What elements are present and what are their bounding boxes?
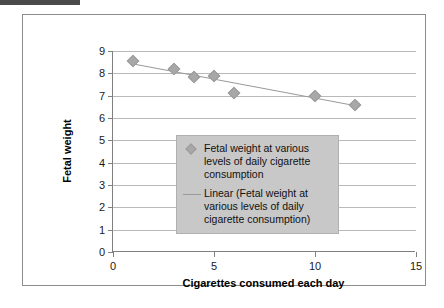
top-page-rule (0, 0, 80, 5)
diamond-marker-icon (182, 142, 204, 156)
x-tick-label: 0 (110, 260, 116, 272)
y-tick-label: 5 (99, 134, 105, 146)
x-tick (315, 252, 316, 257)
y-tick-label: 1 (99, 224, 105, 236)
x-tick (113, 252, 114, 257)
y-tick-label: 2 (99, 201, 105, 213)
y-tick-label: 4 (99, 157, 105, 169)
legend-entry-scatter: Fetal weight at various levels of daily … (182, 142, 333, 181)
legend-entry-trend: Linear (Fetal weight at various levels o… (182, 187, 333, 226)
trend-line-icon (182, 187, 204, 201)
x-tick-label: 15 (410, 260, 422, 272)
y-tick-label: 0 (99, 246, 105, 258)
y-tick-label: 9 (99, 45, 105, 57)
x-axis-title: Cigarettes consumed each day (112, 277, 415, 289)
legend-label-trend: Linear (Fetal weight at various levels o… (204, 187, 333, 226)
x-tick (416, 252, 417, 257)
legend-label-scatter: Fetal weight at various levels of daily … (204, 142, 333, 181)
x-tick-label: 5 (211, 260, 217, 272)
y-tick-label: 3 (99, 179, 105, 191)
x-tick-label: 10 (309, 260, 321, 272)
y-tick-label: 8 (99, 67, 105, 79)
y-axis-title: Fetal weight (61, 119, 73, 183)
chart-legend: Fetal weight at various levels of daily … (176, 135, 339, 234)
y-tick-label: 7 (99, 90, 105, 102)
x-tick (214, 252, 215, 257)
y-tick-label: 6 (99, 112, 105, 124)
chart-frame: Fetal weight Cigarettes consumed each da… (22, 14, 426, 286)
